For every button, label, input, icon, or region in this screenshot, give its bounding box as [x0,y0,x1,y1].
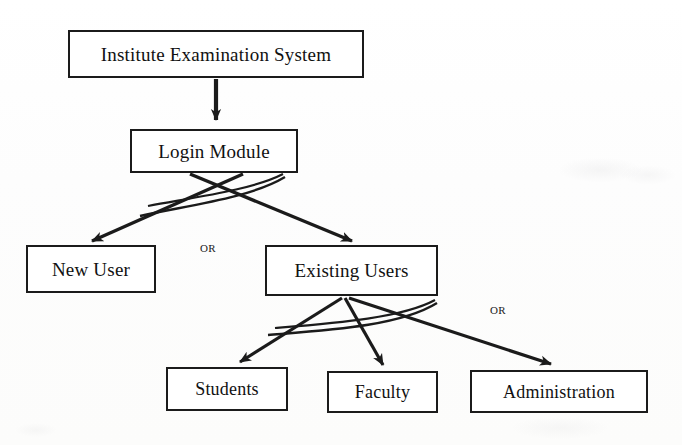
node-administration[interactable]: Administration [470,370,648,413]
edge-existing-to-administration [349,298,551,364]
or-label-users-branch: OR [490,305,506,316]
edge-login-to-new-user [92,174,243,241]
node-students[interactable]: Students [166,367,288,411]
node-institute-examination-system[interactable]: Institute Examination System [68,30,364,78]
node-faculty[interactable]: Faculty [327,371,438,413]
node-label: Faculty [355,383,410,401]
node-label: Administration [503,383,615,401]
node-label: Students [195,380,259,398]
node-new-user[interactable]: New User [26,245,156,293]
diagram-canvas: Institute Examination System Login Modul… [0,0,682,445]
node-label: Existing Users [294,261,408,280]
node-label: Institute Examination System [101,45,331,64]
node-label: New User [52,260,130,279]
or-label-login-branch: OR [200,243,216,254]
node-label: Login Module [158,142,270,161]
node-existing-users[interactable]: Existing Users [265,245,438,296]
node-login-module[interactable]: Login Module [130,129,298,173]
